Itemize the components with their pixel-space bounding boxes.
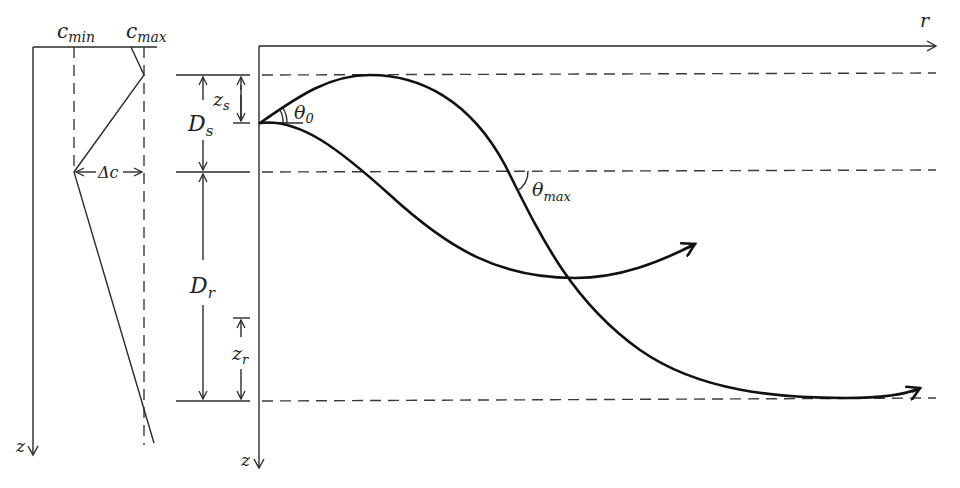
profile-z-axis-label: z bbox=[15, 436, 26, 456]
steep-ray-path bbox=[260, 75, 920, 398]
theta0-label: θ0 bbox=[294, 101, 314, 126]
zs-label: zs bbox=[212, 88, 230, 113]
dimension-annotations: zs Ds Dr zr bbox=[176, 75, 250, 401]
dr-label: Dr bbox=[189, 273, 216, 302]
range-axis-label: r bbox=[920, 9, 931, 31]
delta-c-label: Δc bbox=[97, 163, 119, 182]
theta-max-label: θmax bbox=[532, 178, 572, 204]
ds-label: Ds bbox=[187, 111, 214, 140]
launch-angle-arc-inner bbox=[280, 110, 283, 123]
sound-speed-profile-panel: cmin cmax Δc z bbox=[15, 19, 167, 456]
sound-speed-profile-curve bbox=[74, 47, 154, 443]
max-angle-arc bbox=[517, 171, 528, 191]
waveguide-ray-diagram: cmin cmax Δc z zs Ds Dr zr r z bbox=[0, 0, 960, 488]
ray-z-axis-label: z bbox=[240, 450, 251, 470]
zr-label: zr bbox=[231, 342, 249, 367]
c-min-label: cmin bbox=[57, 19, 95, 45]
c-max-label: cmax bbox=[126, 19, 167, 45]
shallow-ray-path bbox=[260, 122, 695, 278]
ray-panel: r z θ0 θmax bbox=[240, 9, 936, 470]
